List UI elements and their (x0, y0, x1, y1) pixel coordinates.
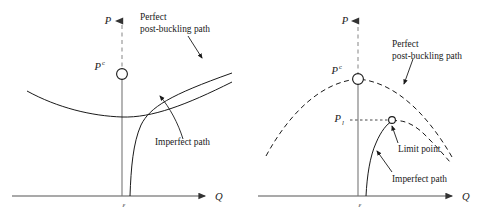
right-perfect-path-line1: Perfect (392, 39, 419, 49)
right-critical-point-label: P c (331, 63, 342, 76)
buckling-diagram-figure: P Q ε P c Perfect post-buckling path Imp… (0, 0, 492, 217)
right-origin-label: ε (359, 201, 362, 209)
right-imperfect-path-annotation: Imperfect path (392, 174, 447, 184)
right-imperfect-post-buckling-curve (392, 121, 450, 162)
left-critical-point-label-base: P (94, 61, 102, 72)
right-limit-point-marker (389, 117, 396, 124)
panel-right-unstable-bifurcation: P Q ε P c P l Perfect post-buckling path… (258, 15, 470, 209)
left-perfect-path-line1: Perfect (140, 12, 167, 22)
right-limit-point-value-label: P l (334, 113, 344, 126)
left-critical-point-label: P c (94, 59, 105, 72)
right-y-axis-label: P (341, 15, 349, 26)
left-x-axis-label: Q (215, 191, 223, 202)
left-critical-point-marker (117, 69, 128, 80)
left-origin-label: ε (123, 201, 126, 209)
right-limit-point-label-sub: l (342, 119, 344, 126)
right-perfect-path-line2: post-buckling path (392, 51, 462, 61)
left-imperfect-path-curve (130, 73, 232, 196)
right-perfect-path-leader (404, 59, 413, 84)
left-critical-point-label-sup: c (102, 59, 105, 66)
right-critical-point-marker (353, 74, 364, 85)
left-perfect-path-line2: post-buckling path (140, 24, 210, 34)
right-critical-point-label-sup: c (339, 63, 342, 70)
right-limit-point-annotation: Limit point (398, 144, 441, 154)
left-perfect-post-buckling-curve (27, 82, 232, 117)
right-perfect-path-annotation: Perfect post-buckling path (392, 39, 462, 61)
right-critical-point-label-base: P (331, 65, 339, 76)
right-imperfect-path-curve (366, 121, 392, 196)
left-perfect-path-annotation: Perfect post-buckling path (140, 12, 210, 34)
right-x-axis-label: Q (462, 191, 470, 202)
panel-left-stable-bifurcation: P Q ε P c Perfect post-buckling path Imp… (12, 12, 232, 209)
left-perfect-path-leader (188, 36, 202, 58)
left-imperfect-path-annotation: Imperfect path (155, 137, 210, 147)
right-limit-point-leader (392, 126, 398, 143)
right-limit-point-label-base: P (334, 113, 342, 124)
left-y-axis-label: P (104, 15, 112, 26)
right-imperfect-path-leader (377, 151, 392, 172)
